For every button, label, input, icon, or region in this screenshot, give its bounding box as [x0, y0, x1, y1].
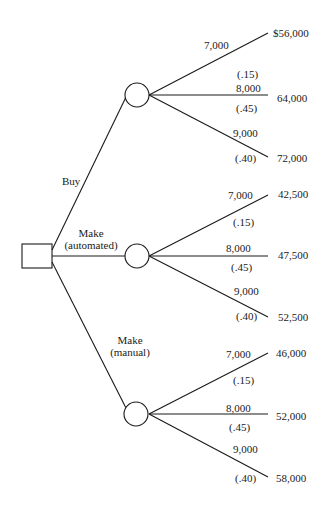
demand-label: 8,000: [226, 242, 251, 254]
probability-label: (.40): [236, 310, 257, 323]
alt-label-automated-line1: Make: [78, 227, 103, 239]
probability-label: (.40): [235, 472, 256, 485]
chance-node-make-automated: 7,000 (.15) 8,000 (.45) 9,000 (.40) 42,5…: [125, 188, 309, 323]
edge-make-manual: [52, 262, 127, 410]
demand-label: 8,000: [226, 402, 251, 414]
payoff-value: 64,000: [277, 92, 308, 104]
chance-node-buy: 7,000 (.15) 8,000 (.45) 9,000 (.40) $56,…: [125, 27, 309, 165]
probability-label: (.15): [233, 374, 254, 387]
demand-label: 8,000: [236, 82, 261, 94]
demand-label: 9,000: [233, 127, 258, 139]
payoff-value: 47,500: [278, 249, 309, 261]
demand-label: 7,000: [204, 39, 229, 51]
payoff-value: $56,000: [273, 27, 309, 39]
payoff-value: 52,000: [276, 410, 307, 422]
decision-node-square: [22, 244, 52, 268]
probability-label: (.45): [229, 421, 250, 434]
probability-label: (.45): [236, 102, 257, 115]
payoff-value: 58,000: [276, 472, 307, 484]
alt-label-buy: Buy: [62, 175, 81, 187]
chance-node-circle: [125, 83, 149, 107]
demand-label: 9,000: [234, 285, 259, 297]
demand-label: 7,000: [228, 189, 253, 201]
payoff-value: 72,000: [277, 152, 308, 164]
payoff-value: 52,500: [278, 311, 309, 323]
alt-label-manual-line1: Make: [117, 334, 142, 346]
demand-label: 7,000: [226, 348, 251, 360]
chance-node-circle: [124, 402, 148, 426]
chance-node-make-manual: 7,000 (.15) 8,000 (.45) 9,000 (.40) 46,0…: [124, 347, 307, 485]
probability-label: (.15): [237, 68, 258, 81]
chance-node-circle: [125, 244, 149, 268]
probability-label: (.15): [233, 216, 254, 229]
demand-label: 9,000: [233, 443, 258, 455]
alt-label-automated-line2: (automated): [64, 239, 117, 252]
probability-label: (.40): [235, 152, 256, 165]
payoff-value: 42,500: [278, 188, 309, 200]
payoff-value: 46,000: [276, 347, 307, 359]
alt-label-manual-line2: (manual): [110, 346, 150, 359]
probability-label: (.45): [231, 261, 252, 274]
decision-tree-diagram: Buy Make (automated) Make (manual) 7,000…: [0, 0, 329, 510]
